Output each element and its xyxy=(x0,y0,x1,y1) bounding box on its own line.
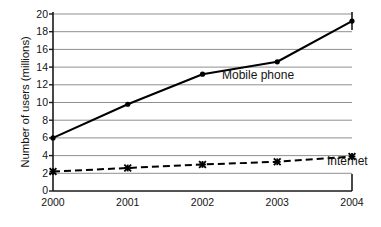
plot-area: Mobile phone Internet xyxy=(53,14,352,191)
data-point-marker xyxy=(125,102,130,107)
y-tick-label: 8 xyxy=(26,115,48,125)
y-tick-label: 16 xyxy=(26,44,48,54)
x-tick-label: 2004 xyxy=(329,196,375,208)
series-paths xyxy=(53,21,352,171)
data-point-marker xyxy=(50,168,57,175)
data-point-marker xyxy=(124,165,131,172)
series-markers xyxy=(50,18,356,174)
data-point-marker xyxy=(50,135,55,140)
plot-svg xyxy=(53,14,352,191)
series-annotation-mobile-phone: Mobile phone xyxy=(222,68,294,82)
gridlines xyxy=(53,14,352,173)
data-point-marker xyxy=(274,158,281,165)
y-axis-tick-labels: 20 18 16 14 12 10 8 6 4 2 0 xyxy=(26,0,48,227)
data-point-marker xyxy=(275,59,280,64)
y-tick-label: 0 xyxy=(26,185,48,195)
data-point-marker xyxy=(199,161,206,168)
x-tick-label: 2002 xyxy=(180,196,226,208)
y-tick-label: 4 xyxy=(26,150,48,160)
data-point-marker xyxy=(349,18,354,23)
x-tick-label: 2000 xyxy=(30,196,76,208)
series-annotation-internet: Internet xyxy=(327,154,368,168)
y-tick-label: 10 xyxy=(26,97,48,107)
y-tick-label: 20 xyxy=(26,9,48,19)
y-tick-label: 2 xyxy=(26,168,48,178)
y-tick-label: 12 xyxy=(26,79,48,89)
y-tick-label: 14 xyxy=(26,62,48,72)
y-tick-label: 6 xyxy=(26,132,48,142)
x-tick-label: 2001 xyxy=(105,196,151,208)
x-tick-label: 2003 xyxy=(254,196,300,208)
x-axis-tick-labels: 2000 2001 2002 2003 2004 xyxy=(53,196,352,212)
line-chart: Number of users (millions) 20 18 16 14 1… xyxy=(0,0,381,227)
data-point-marker xyxy=(200,72,205,77)
y-tick-label: 18 xyxy=(26,26,48,36)
